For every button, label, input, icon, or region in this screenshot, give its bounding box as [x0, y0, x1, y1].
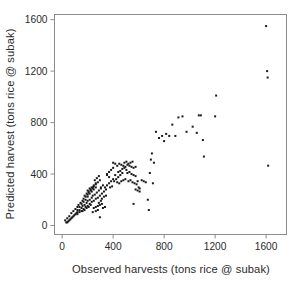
data-point [129, 179, 131, 181]
data-point [136, 183, 138, 185]
data-point [91, 201, 93, 203]
data-point [97, 181, 99, 183]
data-point [101, 203, 103, 205]
data-point [103, 196, 105, 198]
data-point [126, 164, 128, 166]
data-point [214, 115, 216, 117]
data-point [192, 126, 194, 128]
y-tick-label: 800 [31, 117, 48, 128]
data-point [152, 182, 154, 184]
data-point [121, 168, 123, 170]
x-tick-label: 1600 [255, 241, 278, 252]
data-point [114, 163, 116, 165]
data-point [96, 192, 98, 194]
data-point [132, 161, 134, 163]
data-point [87, 196, 89, 198]
x-tick-label: 400 [105, 241, 122, 252]
data-point [203, 156, 205, 158]
data-point [106, 184, 108, 186]
data-point [127, 180, 129, 182]
data-point [125, 161, 127, 163]
x-tick-label: 1200 [204, 241, 227, 252]
data-point [121, 172, 123, 174]
data-point [101, 198, 103, 200]
data-point [135, 188, 137, 190]
data-point [85, 199, 87, 201]
x-tick-label: 0 [59, 241, 65, 252]
data-point [163, 140, 165, 142]
data-point [158, 137, 160, 139]
x-axis-label: Observed harvests (tons rice @ subak) [72, 263, 270, 275]
data-point [97, 205, 99, 207]
data-point [200, 114, 202, 116]
data-point [118, 182, 120, 184]
data-point [74, 208, 76, 210]
data-point [84, 195, 86, 197]
data-point [103, 191, 105, 193]
data-point [133, 174, 135, 176]
data-point [70, 217, 72, 219]
data-point [143, 180, 145, 182]
data-point [91, 197, 93, 199]
data-point [120, 180, 122, 182]
data-point [135, 175, 137, 177]
data-point [117, 171, 119, 173]
y-axis-label: Predicted harvest (tons rice @ subak) [4, 28, 16, 219]
data-point [149, 172, 151, 174]
data-point [168, 135, 170, 137]
data-point [108, 176, 110, 178]
data-point [105, 188, 107, 190]
data-point [132, 181, 134, 183]
data-point [78, 209, 80, 211]
data-point [130, 166, 132, 168]
data-point [181, 115, 183, 117]
data-point [92, 211, 94, 213]
data-point [265, 25, 267, 27]
data-point [112, 162, 114, 164]
data-point [99, 204, 101, 206]
data-point [119, 170, 121, 172]
data-point [72, 210, 74, 212]
data-point [102, 184, 104, 186]
data-point [112, 167, 114, 169]
data-point [104, 206, 106, 208]
data-point [86, 202, 88, 204]
data-point [91, 191, 93, 193]
y-tick-label: 1600 [25, 14, 48, 25]
y-axis-tick-labels: 040080012001600 [25, 14, 48, 231]
data-point [174, 135, 176, 137]
data-point [76, 206, 78, 208]
data-point [266, 70, 268, 72]
data-point [91, 186, 93, 188]
data-point [119, 174, 121, 176]
data-point [97, 209, 99, 211]
data-point [126, 172, 128, 174]
data-point [82, 205, 84, 207]
data-point [105, 195, 107, 197]
data-point [151, 152, 153, 154]
data-point [95, 182, 97, 184]
data-point [83, 198, 85, 200]
data-point [89, 199, 91, 201]
data-point [133, 203, 135, 205]
data-point [98, 175, 100, 177]
data-point [86, 193, 88, 195]
data-point [93, 184, 95, 186]
data-point [98, 190, 100, 192]
data-point [100, 186, 102, 188]
data-point [100, 200, 102, 202]
data-point [98, 202, 100, 204]
data-point [134, 182, 136, 184]
data-point [123, 162, 125, 164]
data-point [137, 190, 139, 192]
data-point [95, 198, 97, 200]
data-point [171, 124, 173, 126]
data-point [117, 176, 119, 178]
data-point [135, 166, 137, 168]
data-point [99, 179, 101, 181]
data-point [122, 179, 124, 181]
data-point [196, 132, 198, 134]
x-axis-tick-labels: 040080012001600 [59, 241, 277, 252]
data-point [84, 204, 86, 206]
data-point [82, 210, 84, 212]
